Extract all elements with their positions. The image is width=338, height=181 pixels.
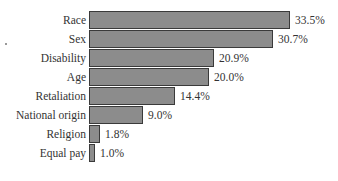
- bar: [89, 106, 143, 124]
- category-label: Equal pay: [40, 144, 86, 163]
- value-label: 1.8%: [105, 125, 129, 144]
- bar: [89, 68, 209, 86]
- bar-chart: Race33.5%Sex30.7%Disability20.9%Age20.0%…: [0, 0, 338, 181]
- bar-row: Race33.5%: [0, 11, 338, 30]
- bar: [89, 11, 290, 29]
- value-label: 20.0%: [214, 68, 244, 87]
- bar-row: Sex30.7%: [0, 30, 338, 49]
- category-label: Age: [67, 68, 86, 87]
- bar: [89, 125, 100, 143]
- bar: [89, 49, 214, 67]
- bar: [89, 30, 273, 48]
- bar-row: Religion1.8%: [0, 125, 338, 144]
- bar-row: Disability20.9%: [0, 49, 338, 68]
- value-label: 9.0%: [148, 106, 172, 125]
- category-label: Religion: [46, 125, 86, 144]
- value-label: 20.9%: [219, 49, 249, 68]
- bar: [89, 87, 175, 105]
- category-label: Retaliation: [36, 87, 86, 106]
- value-label: 14.4%: [180, 87, 210, 106]
- bar-row: National origin9.0%: [0, 106, 338, 125]
- category-label: Sex: [69, 30, 86, 49]
- bar-row: Equal pay1.0%: [0, 144, 338, 163]
- category-label: Disability: [41, 49, 86, 68]
- value-label: 30.7%: [278, 30, 308, 49]
- category-label: Race: [63, 11, 86, 30]
- bar-row: Retaliation14.4%: [0, 87, 338, 106]
- category-label: National origin: [16, 106, 86, 125]
- value-label: 1.0%: [100, 144, 124, 163]
- bar-row: Age20.0%: [0, 68, 338, 87]
- value-label: 33.5%: [295, 11, 325, 30]
- bar: [89, 144, 95, 162]
